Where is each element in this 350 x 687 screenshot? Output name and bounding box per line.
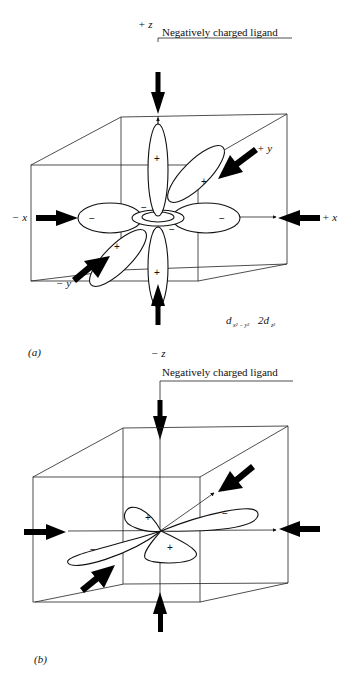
svg-text:x² − y²: x² − y² bbox=[232, 322, 249, 328]
ligand-leader-line bbox=[158, 38, 292, 42]
panel-label-b: (b) bbox=[34, 653, 47, 666]
label-plus-x: + x bbox=[322, 211, 337, 223]
sign-ring-upper: − bbox=[141, 202, 147, 213]
sign-upper-left: + bbox=[145, 512, 151, 523]
svg-text:d: d bbox=[226, 314, 232, 326]
ligand-arrow-left-b bbox=[24, 524, 66, 540]
ligand-arrow-plus-z bbox=[151, 72, 165, 114]
ligand-arrow-diagonal-back-b bbox=[218, 464, 255, 492]
sign-y-front: + bbox=[114, 241, 120, 252]
ligand-arrow-minus-x bbox=[36, 210, 78, 226]
panel-label-a: (a) bbox=[28, 346, 41, 359]
label-minus-z: − z bbox=[151, 347, 166, 359]
sign-z-bottom: + bbox=[154, 267, 160, 278]
label-plus-y: + y bbox=[257, 142, 272, 154]
ligand-leader-line-b bbox=[160, 381, 293, 400]
lobe-z-top bbox=[148, 124, 168, 216]
ligand-arrow-bottom-b bbox=[153, 592, 167, 632]
diagram-canvas: + + − − + + − − + z Negatively c bbox=[0, 0, 350, 687]
ligand-label-a: Negatively charged ligand bbox=[162, 26, 278, 38]
ligand-arrow-right-b bbox=[279, 521, 320, 537]
sign-lower-left: − bbox=[90, 544, 96, 555]
sign-y-back: + bbox=[201, 176, 207, 187]
sign-upper-right: − bbox=[222, 508, 228, 519]
label-plus-z: + z bbox=[138, 18, 153, 30]
sign-x-right: − bbox=[219, 213, 225, 224]
label-minus-y: − y bbox=[56, 277, 71, 289]
orbital-label: d x² − y² 2d z² bbox=[226, 314, 275, 328]
sign-z-top: + bbox=[154, 153, 160, 164]
lobe-upper-left bbox=[124, 507, 161, 531]
figure-b: Negatively charged ligand + − − + bbox=[24, 366, 320, 666]
ligand-label-b: Negatively charged ligand bbox=[162, 366, 278, 378]
ligand-arrow-diagonal-front-b bbox=[80, 565, 115, 593]
figure-a: + + − − + + − − + z Negatively c bbox=[12, 18, 337, 359]
sign-x-left: − bbox=[89, 213, 95, 224]
sign-ring-lower: − bbox=[169, 224, 175, 235]
ligand-arrow-plus-x bbox=[278, 210, 320, 226]
svg-text:2d: 2d bbox=[258, 314, 270, 326]
svg-text:z²: z² bbox=[270, 322, 275, 328]
label-minus-x: − x bbox=[12, 211, 27, 223]
sign-lower-right: + bbox=[167, 542, 173, 553]
